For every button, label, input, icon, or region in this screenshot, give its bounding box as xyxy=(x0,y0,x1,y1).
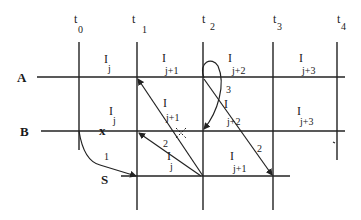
time-label-t2: t xyxy=(202,12,206,26)
svg-text:I: I xyxy=(299,51,303,65)
svg-text:j+2: j+2 xyxy=(226,116,240,127)
svg-text:2: 2 xyxy=(163,138,168,149)
svg-text:2: 2 xyxy=(210,21,215,32)
dashed-cross-marker xyxy=(176,128,186,138)
svg-text:j+2: j+2 xyxy=(231,65,245,76)
svg-text:0: 0 xyxy=(78,24,83,35)
svg-text:4: 4 xyxy=(341,21,346,32)
time-lines xyxy=(79,42,337,210)
arrow-3-loop xyxy=(203,61,222,129)
svg-text:j+1: j+1 xyxy=(164,65,178,76)
svg-text:1: 1 xyxy=(142,24,147,35)
svg-text:j: j xyxy=(107,63,111,74)
svg-text:3: 3 xyxy=(277,21,282,32)
svg-text:I: I xyxy=(163,96,167,110)
time-label-t1: t xyxy=(132,12,136,26)
svg-text:3: 3 xyxy=(226,84,231,95)
row-b-intervals: I j I j+1 I j+2 I j+3 xyxy=(109,96,313,127)
row-label-b: B xyxy=(20,124,29,139)
row-s-intervals: I j I j+1 xyxy=(167,149,246,174)
row-label-s: S xyxy=(101,172,108,187)
row-label-a: A xyxy=(17,70,27,85)
svg-text:j+3: j+3 xyxy=(301,65,315,76)
row-lines xyxy=(37,77,345,176)
svg-text:I: I xyxy=(230,149,234,163)
svg-text:j: j xyxy=(169,161,173,172)
svg-text:j: j xyxy=(112,115,116,126)
svg-text:j+1: j+1 xyxy=(165,112,179,123)
svg-text:2: 2 xyxy=(257,143,262,154)
svg-text:I: I xyxy=(228,51,232,65)
arrow-2-right xyxy=(204,79,272,175)
svg-text:1: 1 xyxy=(104,151,109,162)
svg-text:I: I xyxy=(162,51,166,65)
x-marker: x xyxy=(99,123,106,138)
timing-diagram: t 0 t 1 t 2 t 3 t 4 A B S I j I j+1 I j+… xyxy=(0,0,361,220)
time-labels: t 0 t 1 t 2 t 3 t 4 xyxy=(74,12,346,35)
row-a-intervals: I j I j+1 I j+2 I j+3 xyxy=(104,51,315,76)
svg-text:j+3: j+3 xyxy=(299,116,313,127)
svg-text:j+1: j+1 xyxy=(232,163,246,174)
